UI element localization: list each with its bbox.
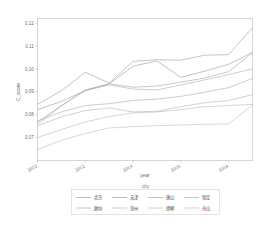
chart-figure: 0.070.080.090.100.110.12 201020122014201…: [0, 0, 273, 226]
legend-label: 唐山: [166, 194, 174, 201]
legend-label: 邯郸: [166, 205, 175, 212]
y-tick-label: 0.11: [25, 44, 34, 49]
legend-label: 廊坊: [94, 205, 103, 212]
y-tick-label: 0.08: [25, 112, 34, 117]
y-axis-title: C_score: [16, 83, 21, 101]
legend-label: 天津: [130, 194, 139, 201]
legend-label: 保定: [202, 194, 211, 201]
line-chart-svg: 0.070.080.090.100.110.12 201020122014201…: [0, 0, 273, 226]
legend-label: 沧州: [130, 205, 138, 212]
legend-box: [72, 190, 220, 215]
y-tick-label: 0.12: [25, 21, 34, 26]
y-tick-label: 0.09: [25, 89, 34, 94]
legend-label: 舟山: [202, 205, 210, 212]
legend-title: city: [142, 184, 150, 189]
y-tick-label: 0.10: [25, 67, 34, 72]
legend-label: 北京: [94, 194, 103, 201]
x-axis-title: year: [140, 173, 150, 178]
y-tick-label: 0.07: [25, 135, 34, 140]
